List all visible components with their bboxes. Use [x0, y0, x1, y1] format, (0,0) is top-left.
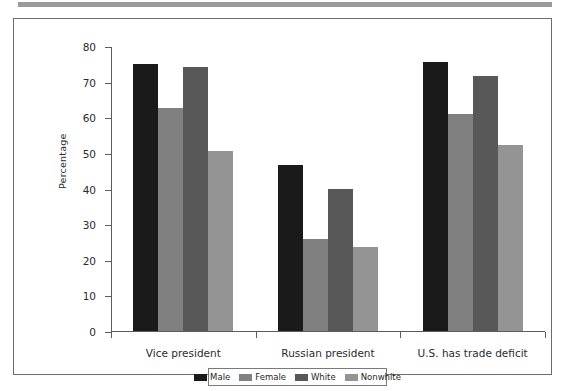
y-axis-tick: 50 [105, 154, 111, 155]
x-axis-category-label: Vice president [146, 348, 221, 359]
y-axis-tick-label: 50 [83, 149, 96, 160]
x-axis-tick [400, 332, 401, 338]
y-axis-tick-label: 20 [83, 256, 96, 267]
legend-item[interactable]: Female [239, 373, 286, 382]
bar [158, 108, 183, 331]
legend-label: Nonwhite [361, 373, 401, 382]
y-axis-tick-label: 10 [83, 291, 96, 302]
x-axis-category-label: U.S. has trade deficit [418, 348, 528, 359]
y-axis-tick: 30 [105, 225, 111, 226]
bar [498, 145, 523, 331]
x-axis-tick [545, 332, 546, 338]
y-axis-tick-label: 70 [83, 77, 96, 88]
x-axis-tick [256, 332, 257, 338]
legend-item[interactable]: Nonwhite [345, 373, 401, 382]
chart-page: 01020304050607080 Vice presidentRussian … [0, 0, 564, 391]
y-axis-tick: 80 [105, 47, 111, 48]
bar [133, 64, 158, 331]
legend-label: Female [255, 373, 286, 382]
legend-item[interactable]: Male [194, 373, 230, 382]
legend-swatch [345, 374, 358, 381]
y-axis-tick-label: 0 [89, 327, 96, 338]
y-axis-title: Percentage [57, 134, 68, 189]
y-axis-tick-label: 60 [83, 113, 96, 124]
bar [473, 76, 498, 331]
bar [423, 62, 448, 331]
y-axis-line [111, 47, 112, 332]
legend-label: Male [210, 373, 230, 382]
bar [208, 151, 233, 331]
y-axis-tick: 60 [105, 118, 111, 119]
y-axis-tick-label: 40 [83, 184, 96, 195]
top-divider-rule [18, 2, 552, 7]
y-axis-tick: 20 [105, 261, 111, 262]
bar [278, 165, 303, 331]
bar [448, 114, 473, 331]
y-axis-tick: 40 [105, 190, 111, 191]
x-axis-tick [111, 332, 112, 338]
bar [328, 189, 353, 331]
legend-swatch [239, 374, 252, 381]
x-axis-line [111, 331, 545, 332]
legend-item[interactable]: White [295, 373, 336, 382]
bar [183, 67, 208, 331]
legend-swatch [295, 374, 308, 381]
legend-label: White [311, 373, 336, 382]
y-axis-tick: 10 [105, 296, 111, 297]
y-axis-tick: 70 [105, 83, 111, 84]
y-axis-tick-label: 80 [83, 42, 96, 53]
x-axis-category-label: Russian president [281, 348, 374, 359]
plot-area: 01020304050607080 Vice presidentRussian … [111, 47, 545, 332]
legend-swatch [194, 374, 207, 381]
bar [353, 247, 378, 331]
figure-frame: 01020304050607080 Vice presidentRussian … [13, 18, 552, 375]
y-axis-tick-label: 30 [83, 220, 96, 231]
chart-legend: MaleFemaleWhiteNonwhite [208, 368, 387, 386]
bar [303, 239, 328, 331]
